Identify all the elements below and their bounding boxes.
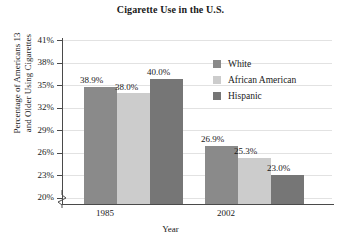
x-tick-label: 1985: [55, 208, 155, 218]
x-axis-title: Year: [0, 224, 341, 234]
legend: White African American Hispanic: [213, 56, 333, 104]
y-axis-line: [62, 38, 63, 204]
bar-1985-hispanic: [150, 79, 183, 204]
x-tick-label: 2002: [176, 208, 276, 218]
bar-value-label: 38.9%: [80, 76, 103, 85]
y-axis-title: Percentage of Americans 13 and Older Usi…: [12, 8, 34, 158]
y-tick-label: 20%: [8, 193, 54, 202]
gridline: [62, 40, 332, 41]
legend-swatch-icon: [213, 92, 221, 100]
bar-1985-african-american: [117, 93, 150, 204]
bar-1985-white: [84, 87, 117, 204]
bar-chart: Cigarette Use in the U.S. 38.9% 38.0% 40…: [0, 0, 341, 243]
bar-value-label: 23.0%: [267, 164, 290, 173]
legend-item-white: White: [213, 56, 333, 72]
chart-title: Cigarette Use in the U.S.: [0, 4, 341, 15]
legend-swatch-icon: [213, 60, 221, 68]
x-axis-line: [62, 204, 334, 205]
legend-label: White: [228, 59, 251, 69]
legend-label: Hispanic: [228, 91, 262, 101]
bar-value-label: 25.3%: [234, 147, 257, 156]
y-axis-title-line2: and Older Using Cigarettes: [23, 34, 33, 132]
axis-break-icon: [55, 190, 69, 208]
y-tick-mark: [57, 85, 62, 86]
legend-label: African American: [228, 75, 296, 85]
bar-value-label: 38.0%: [115, 83, 138, 92]
legend-swatch-icon: [213, 76, 221, 84]
bar-value-label: 26.9%: [201, 135, 224, 144]
legend-item-african-american: African American: [213, 72, 333, 88]
y-tick-mark: [57, 108, 62, 109]
bar-2002-hispanic: [271, 175, 304, 204]
legend-item-hispanic: Hispanic: [213, 88, 333, 104]
y-tick-mark: [57, 130, 62, 131]
y-axis-title-line1: Percentage of Americans 13: [12, 32, 22, 133]
y-tick-mark: [57, 153, 62, 154]
y-tick-mark: [57, 175, 62, 176]
y-tick-label: 23%: [8, 171, 54, 180]
bar-value-label: 40.0%: [147, 68, 170, 77]
y-tick-mark: [57, 40, 62, 41]
y-tick-mark: [57, 63, 62, 64]
